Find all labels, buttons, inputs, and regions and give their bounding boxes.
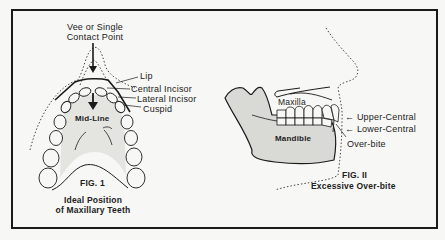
fig1-number: FIG. 1 xyxy=(80,178,105,188)
fig1-caption-line2: of Maxillary Teeth xyxy=(43,205,143,215)
lower-central-label: ← Lower-Central xyxy=(345,124,416,134)
contact-point-label-line2: Contact Point xyxy=(62,32,128,42)
contact-point-label-line1: Vee or Single xyxy=(62,22,128,32)
fig1-caption-line1: Ideal Position xyxy=(48,195,138,205)
upper-central-label: ← Upper-Central xyxy=(345,112,416,122)
fig2-number: FIG. II xyxy=(342,170,367,180)
lateral-incisor-label: Lateral Incisor xyxy=(137,94,197,104)
central-incisor-label: Central Incisor xyxy=(131,84,192,94)
mid-line-label: Mid-Line xyxy=(75,114,109,124)
fig2-caption: Excessive Over-bite xyxy=(311,181,396,191)
mandible-label: Mandible xyxy=(275,134,311,144)
over-bite-label: Over-bite xyxy=(347,139,386,149)
lip-label: Lip xyxy=(140,71,153,81)
maxilla-label: Maxilla xyxy=(278,97,306,107)
cuspid-label: Cuspid xyxy=(143,104,172,114)
jaw-profile-illustration xyxy=(225,28,358,190)
